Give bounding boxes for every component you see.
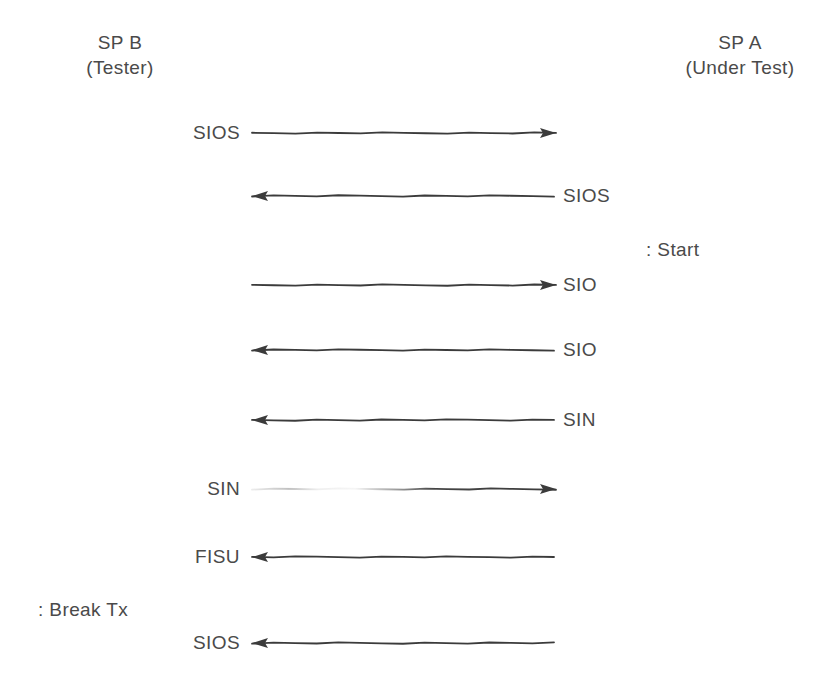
arrow-shaft xyxy=(252,132,556,133)
column-header-sp-b-name: SP B xyxy=(20,30,220,55)
message-label: FISU xyxy=(195,540,240,574)
column-header-sp-a-name: SP A xyxy=(640,30,835,55)
message-arrow-left xyxy=(248,403,558,437)
message-row: SIN xyxy=(0,472,835,506)
arrow-shaft xyxy=(252,556,554,557)
message-label: SIO xyxy=(563,268,597,302)
message-label: SIN xyxy=(563,403,596,437)
message-arrow-right xyxy=(248,116,558,150)
message-row: SIOS xyxy=(0,179,835,213)
arrow-shaft xyxy=(252,642,554,643)
annotation-break-tx: : Break Tx xyxy=(38,598,128,622)
message-arrow-left xyxy=(248,626,558,660)
message-row: SIO xyxy=(0,333,835,367)
arrow-shaft xyxy=(252,419,554,420)
message-row: FISU xyxy=(0,540,835,574)
column-header-sp-b: SP B (Tester) xyxy=(20,30,220,80)
message-label: SIO xyxy=(563,333,597,367)
message-arrow-right xyxy=(248,268,558,302)
message-label: SIOS xyxy=(563,179,610,213)
arrow-shaft xyxy=(252,488,556,489)
sequence-diagram-canvas: SP B (Tester) SP A (Under Test) SIOSSIOS… xyxy=(0,0,835,681)
message-arrow-left xyxy=(248,540,558,574)
message-arrow-left xyxy=(248,333,558,367)
message-row: SIOS xyxy=(0,626,835,660)
column-header-sp-a-role: (Under Test) xyxy=(640,55,835,80)
message-label: SIN xyxy=(207,472,240,506)
message-arrow-right xyxy=(248,472,558,506)
annotation-start: : Start xyxy=(646,238,699,262)
column-header-sp-b-role: (Tester) xyxy=(20,55,220,80)
message-row: SIOS xyxy=(0,116,835,150)
arrow-shaft xyxy=(252,349,554,350)
arrow-shaft xyxy=(252,284,556,285)
message-label: SIOS xyxy=(193,626,240,660)
message-row: SIN xyxy=(0,403,835,437)
message-label: SIOS xyxy=(193,116,240,150)
message-arrow-left xyxy=(248,179,558,213)
message-row: SIO xyxy=(0,268,835,302)
arrow-shaft xyxy=(252,195,554,196)
column-header-sp-a: SP A (Under Test) xyxy=(640,30,835,80)
